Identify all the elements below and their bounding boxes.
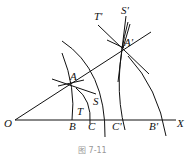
geometry-diagram: O A T S B C C' B' X A' T' S' 图 7-11	[0, 0, 189, 154]
arc-b-prime	[128, 56, 166, 136]
label-a-prime: A'	[123, 36, 134, 48]
label-a: A	[69, 70, 77, 82]
label-s: S	[93, 95, 99, 107]
line-t-prime	[98, 25, 149, 74]
label-b-prime: B'	[149, 120, 159, 132]
label-o: O	[4, 117, 12, 129]
figure-caption: 图 7-11	[78, 146, 107, 154]
label-b: B	[69, 120, 76, 132]
label-c-prime: C'	[112, 120, 122, 132]
label-s-prime: S'	[121, 4, 130, 16]
label-t-prime: T'	[94, 10, 103, 22]
label-c: C	[88, 120, 96, 132]
label-t: T	[77, 105, 84, 117]
label-x: X	[176, 117, 185, 129]
